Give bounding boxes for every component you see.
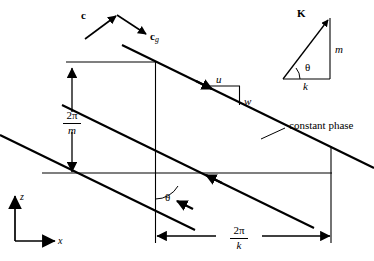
velocity-vectors-group: [85, 15, 146, 39]
uw-component-triangle-group: [202, 86, 240, 105]
horizontal-wavelength-denominator: k: [222, 239, 256, 252]
phase-line-lower-arrowhead: [177, 201, 193, 209]
phase-velocity-vector-c: [85, 16, 116, 39]
triangle-theta-label: θ: [305, 62, 310, 73]
main-theta-label: θ: [165, 192, 170, 203]
constant-phase-lines-group: [0, 45, 374, 230]
constant-phase-leader-line: [261, 128, 285, 139]
phase-line-middle-arrowhead: [206, 175, 222, 183]
phase-line-middle: [62, 105, 314, 228]
vertical-wavelength-fraction: 2π m: [57, 110, 87, 136]
triangle-theta-arc: [296, 68, 300, 79]
horizontal-wavenumber-label-k: k: [303, 81, 308, 92]
vertical-wavelength-numerator: 2π: [57, 110, 87, 123]
u-component-label: u: [216, 74, 222, 85]
w-component-label: w: [244, 96, 251, 107]
wavevector-label-K: K: [297, 8, 306, 19]
coordinate-axes-group: [15, 196, 55, 241]
horizontal-wavelength-numerator: 2π: [222, 225, 256, 238]
phase-velocity-label-c: c: [81, 10, 86, 21]
vertical-wavenumber-label-m: m: [335, 44, 343, 55]
vertical-wavelength-denominator: m: [57, 124, 87, 137]
group-velocity-label-cg: cg: [150, 31, 159, 44]
phase-line-lower: [0, 135, 195, 230]
cg-subscript-letter: g: [155, 35, 159, 44]
z-axis-label: z: [20, 192, 24, 202]
constant-phase-label: constant phase: [289, 120, 353, 131]
phase-line-upper-arrowhead: [196, 81, 212, 89]
x-axis-label: x: [58, 236, 62, 246]
horizontal-wavelength-fraction: 2π k: [222, 225, 256, 251]
group-velocity-vector-cg: [117, 15, 146, 34]
physics-diagram-figure: c cg K m k θ θ u w constant phase z x 2π…: [0, 0, 374, 261]
